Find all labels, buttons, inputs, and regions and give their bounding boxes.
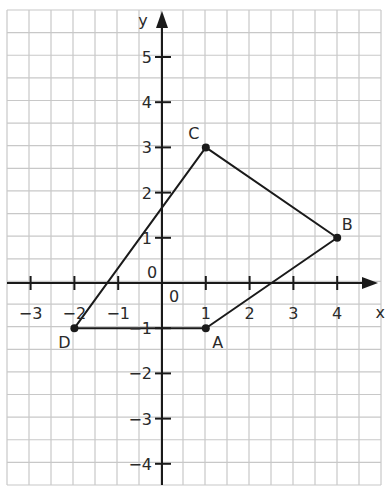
origin-label: 0 — [147, 263, 157, 282]
y-axis-arrow-icon — [156, 11, 168, 28]
x-tick-label: 1 — [201, 304, 211, 323]
point-c-dot — [202, 143, 210, 151]
y-tick-label: 1 — [142, 229, 152, 248]
y-tick-label: 3 — [142, 138, 152, 157]
quadrilateral-abcd — [74, 147, 337, 328]
x-tick-label: −1 — [106, 304, 130, 323]
y-tick-label: −3 — [128, 410, 152, 429]
y-tick-label: −2 — [128, 364, 152, 383]
grid-lines — [7, 10, 381, 485]
coordinate-plane-figure: −3−2−11234−4−3−2−112345xy00ABCD — [0, 0, 387, 492]
origin-label: 0 — [169, 287, 179, 306]
x-tick-label: 3 — [288, 304, 298, 323]
x-tick-label: 2 — [245, 304, 255, 323]
axis-ticks — [31, 57, 338, 464]
y-axis-label: y — [138, 11, 147, 30]
point-label-a: A — [212, 333, 223, 352]
point-b-dot — [333, 234, 341, 242]
point-a-dot — [202, 324, 210, 332]
y-tick-label: −4 — [128, 455, 152, 474]
x-tick-label: −2 — [63, 304, 87, 323]
x-axis-label: x — [376, 303, 385, 322]
point-d-dot — [70, 324, 78, 332]
y-tick-label: 5 — [142, 48, 152, 67]
y-tick-label: 2 — [142, 184, 152, 203]
x-tick-label: 4 — [332, 304, 342, 323]
point-label-d: D — [58, 333, 70, 352]
point-label-c: C — [188, 124, 199, 143]
x-tick-label: −3 — [19, 304, 43, 323]
point-label-b: B — [342, 215, 353, 234]
y-tick-label: 4 — [142, 93, 152, 112]
y-tick-label: −1 — [128, 319, 152, 338]
quadrilateral-outline — [74, 147, 337, 328]
x-axis-arrow-icon — [362, 277, 378, 289]
